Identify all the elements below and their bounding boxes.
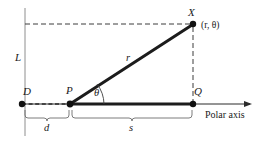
coordinates-label: (r, θ) — [201, 21, 219, 31]
directrix-label: L — [15, 52, 21, 63]
point-label-p: P — [66, 85, 73, 96]
polar-coordinate-diagram: L D P Q X (r, θ) r θ d s Polar axis — [0, 0, 279, 141]
angle-label: θ — [94, 88, 99, 99]
radius-line — [70, 25, 192, 104]
distance-s-label: s — [129, 123, 133, 134]
point-label-d: D — [23, 86, 31, 97]
polar-axis-arrowhead — [244, 101, 252, 107]
polar-axis-label: Polar axis — [205, 110, 245, 120]
point-marker-d — [19, 101, 25, 107]
point-marker-q — [190, 101, 196, 107]
point-marker-x — [190, 21, 196, 27]
brace-s — [72, 110, 192, 121]
radius-label: r — [126, 53, 130, 64]
point-label-x: X — [188, 7, 195, 18]
point-label-q: Q — [194, 86, 202, 97]
point-marker-p — [67, 101, 74, 108]
brace-d — [25, 110, 69, 121]
distance-d-label: d — [44, 123, 49, 134]
